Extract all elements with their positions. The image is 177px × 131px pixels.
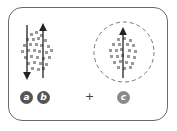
plus-operator: +: [85, 90, 94, 103]
diagram-canvas: [0, 0, 177, 131]
dashed-boundary-circle: [94, 22, 154, 82]
left-dot-cluster: [21, 31, 53, 71]
label-badge-a: a: [20, 91, 33, 104]
label-badge-c: c: [117, 91, 130, 104]
label-badge-b: b: [37, 91, 50, 104]
